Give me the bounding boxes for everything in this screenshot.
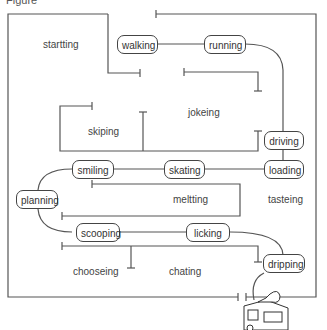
region-skiping: skiping [88,126,119,137]
state-loading[interactable]: loading [264,160,304,179]
state-dripping[interactable]: dripping [263,254,305,273]
state-smiling[interactable]: smiling [72,160,114,179]
region-meltting: meltting [173,194,208,205]
state-planning[interactable]: planning [16,190,58,209]
region-chating: chating [169,266,201,277]
region-tasteing: tasteing [268,194,303,205]
outer-frame-left [8,14,238,297]
region-startting: startting [43,39,79,50]
state-driving[interactable]: driving [264,131,304,150]
state-skating[interactable]: skating [164,160,205,179]
state-licking[interactable]: licking [186,223,230,242]
ice-cream-truck-icon [236,290,296,330]
state-walking[interactable]: walking [117,35,158,54]
state-running[interactable]: running [204,35,246,54]
state-scooping[interactable]: scooping [76,223,120,242]
region-jokeing: jokeing [188,107,220,118]
region-chooseing: chooseing [73,266,119,277]
